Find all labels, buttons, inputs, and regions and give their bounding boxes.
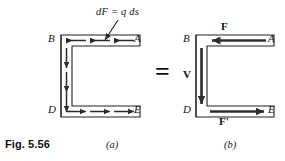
channel-outline-a [61,35,140,117]
panel-b-geometry [196,35,274,117]
force-label-V: V [183,69,191,80]
vertex-label-a-E: E [134,104,141,115]
figure-drawing [0,0,285,161]
vertex-label-a-D: D [48,104,56,115]
vertex-label-b-B: B [183,33,190,44]
vertex-label-a-A: A [134,33,141,44]
vertex-label-b-E: E [268,104,275,115]
figure-caption: Fig. 5.56 [5,139,50,150]
figure-container: B A D E dF = q ds = B A D E F F' V Fig. … [0,0,285,161]
vertex-label-b-D: D [183,104,191,115]
vertex-label-a-B: B [48,33,55,44]
panel-sublabel-a: (a) [106,140,118,151]
vertex-label-b-A: A [268,33,275,44]
force-label-F: F [221,21,228,32]
panel-sublabel-b: (b) [224,140,236,151]
equals-symbol: = [155,59,170,85]
channel-outline-b [196,35,274,117]
panel-a-geometry [61,20,140,117]
annotation-dF-equals-q-ds: dF = q ds [96,7,139,18]
force-label-F-prime: F' [219,116,229,127]
